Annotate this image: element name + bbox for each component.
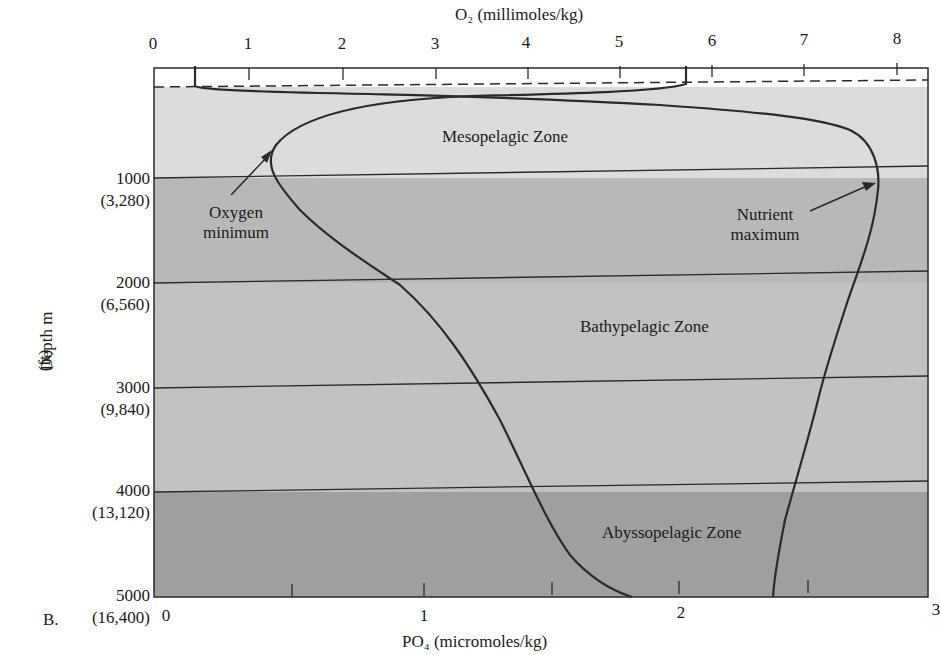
depth-ft-label: (6,560) — [100, 294, 150, 316]
bathypelagic-zone-label: Bathypelagic Zone — [580, 318, 709, 335]
depth-tick-2000: 2000 (6,560) — [100, 272, 150, 316]
depth-ft-label: (16,400) — [92, 607, 150, 629]
depth-tick-3000: 3000 (9,840) — [100, 377, 150, 421]
top-tick-label: 2 — [338, 34, 347, 54]
depth-m-label: 2000 — [100, 272, 150, 294]
top-tick-label: 3 — [431, 34, 440, 54]
top-tick-label: 1 — [244, 34, 253, 54]
depth-tick-1000: 1000 (3,280) — [100, 168, 150, 212]
bottom-tick-label: 1 — [420, 606, 429, 626]
bottom-axis-title: PO₄ (micromoles/kg) — [402, 633, 547, 650]
abyssopelagic-zone-label: Abyssopelagic Zone — [602, 524, 741, 541]
depth-ft-label: (13,120) — [92, 502, 150, 524]
top-tick-label: 8 — [893, 29, 902, 49]
bottom-tick-label: 3 — [932, 600, 940, 620]
mesopelagic-zone-label: Mesopelagic Zone — [442, 128, 568, 145]
top-tick-label: 6 — [708, 31, 717, 51]
depth-m-label: 4000 — [92, 480, 150, 502]
bathypelagic-zone-band — [154, 283, 928, 492]
depth-tick-5000: 5000 (16,400) — [92, 585, 150, 629]
top-tick-label: 4 — [522, 33, 531, 53]
depth-ft-label: (9,840) — [100, 399, 150, 421]
nutrient-maximum-label: Nutrient maximum — [715, 205, 815, 245]
depth-tick-4000: 4000 (13,120) — [92, 480, 150, 524]
oxygen-minimum-label: Oxygen minimum — [186, 203, 286, 243]
y-axis-unit: (ft) — [36, 341, 53, 381]
top-axis-title: O₂ (millimoles/kg) — [455, 6, 583, 23]
top-tick-label: 5 — [615, 32, 624, 52]
panel-label: B. — [43, 611, 59, 628]
abyssopelagic-zone-band — [154, 492, 928, 597]
bottom-tick-label: 2 — [677, 603, 686, 623]
depth-m-label: 1000 — [100, 168, 150, 190]
bottom-tick-label: 0 — [162, 606, 171, 626]
depth-m-label: 3000 — [100, 377, 150, 399]
top-tick-label: 7 — [800, 30, 809, 50]
top-tick-label: 0 — [149, 34, 158, 54]
depth-m-label: 5000 — [92, 585, 150, 607]
depth-ft-label: (3,280) — [100, 190, 150, 212]
